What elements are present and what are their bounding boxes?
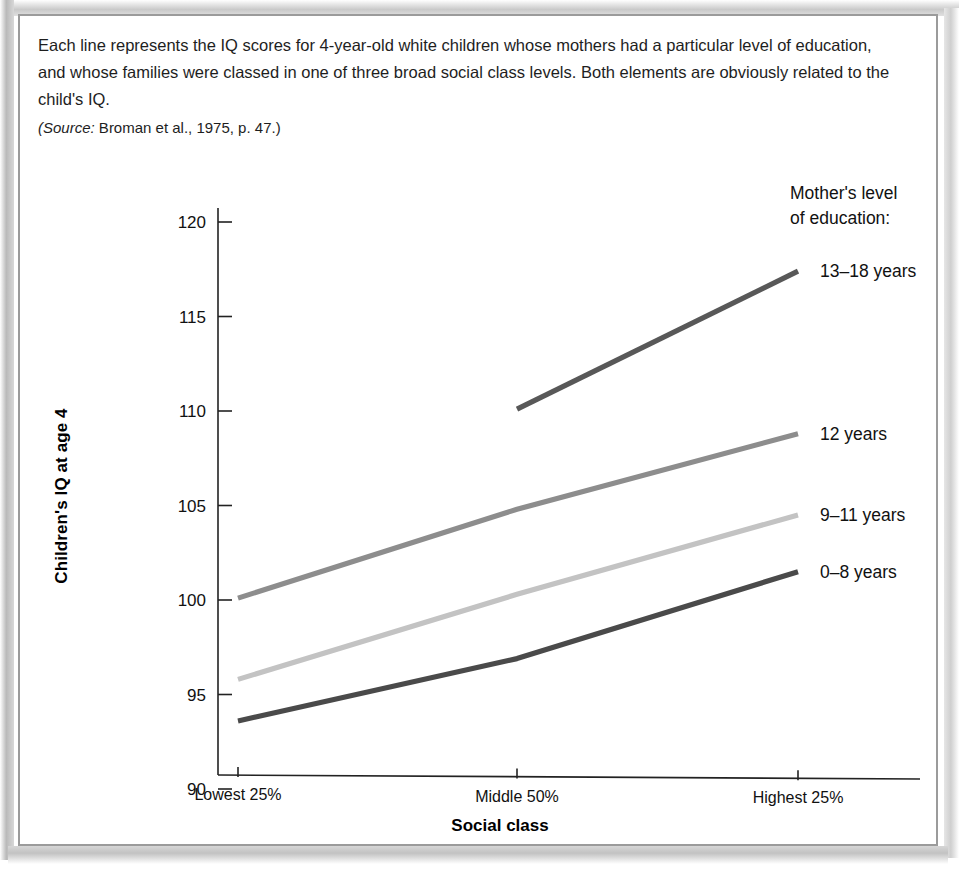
series-line xyxy=(517,271,798,409)
page-shadow-bottom xyxy=(8,846,948,864)
y-tick-label: 95 xyxy=(187,686,206,705)
series-line xyxy=(238,434,798,598)
page-shadow-right xyxy=(944,8,959,858)
legend-title-line1: Mother's level xyxy=(790,183,897,203)
plot-area: Children's IQ at age 4 Social class 9095… xyxy=(20,16,940,848)
legend-item-label: 12 years xyxy=(820,424,887,444)
y-tick-label: 120 xyxy=(178,213,206,232)
y-tick-label: 105 xyxy=(178,497,206,516)
x-axis-line xyxy=(218,775,920,779)
scanned-page: Each line represents the IQ scores for 4… xyxy=(0,0,959,879)
page-shadow-left xyxy=(0,0,14,860)
line-chart: 9095100105110115120 Lowest 25%Middle 50%… xyxy=(20,16,940,848)
y-axis-ticks: 9095100105110115120 xyxy=(178,213,232,799)
x-axis-ticks: Lowest 25%Middle 50%Highest 25% xyxy=(194,767,843,806)
data-series-group xyxy=(238,271,798,721)
x-tick-label: Highest 25% xyxy=(753,789,844,806)
figure-box: Each line represents the IQ scores for 4… xyxy=(18,14,938,846)
legend: Mother's level of education: 13–18 years… xyxy=(790,183,917,582)
legend-item-label: 9–11 years xyxy=(820,505,906,525)
y-tick-label: 100 xyxy=(178,591,206,610)
x-tick-label: Middle 50% xyxy=(475,788,559,805)
x-tick-label: Lowest 25% xyxy=(194,786,281,803)
legend-item-label: 0–8 years xyxy=(820,562,897,582)
y-tick-label: 115 xyxy=(179,308,206,327)
legend-item-label: 13–18 years xyxy=(820,261,917,281)
y-tick-label: 110 xyxy=(179,402,206,421)
legend-title-line2: of education: xyxy=(790,208,890,228)
